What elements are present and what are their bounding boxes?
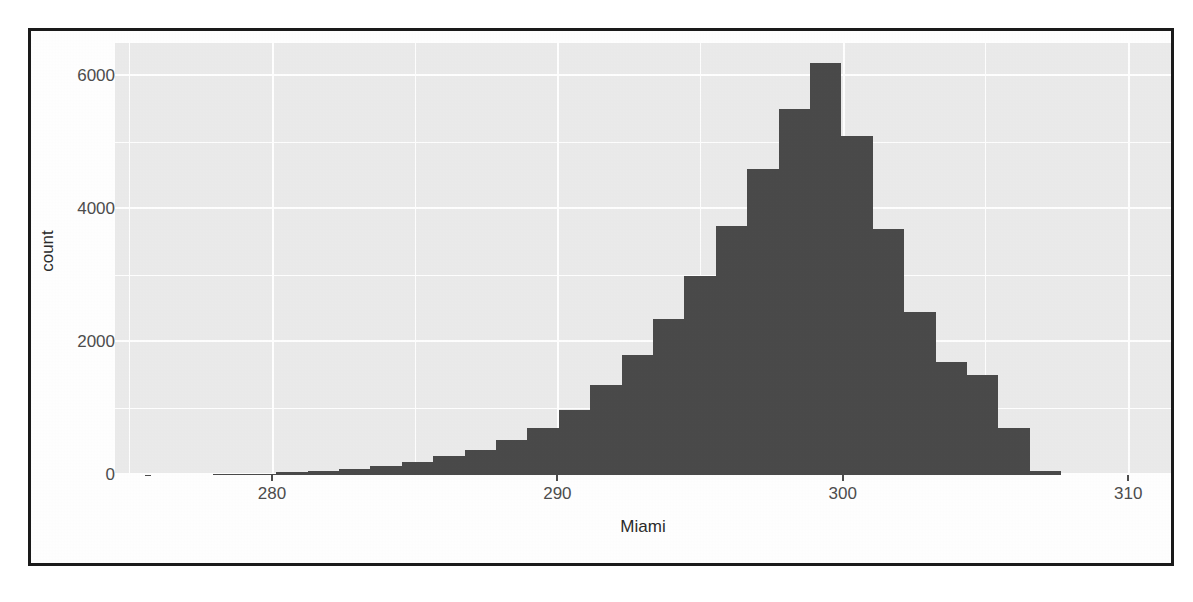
- histogram-bar: [402, 462, 433, 475]
- x-axis-tick-label: 280: [258, 484, 286, 504]
- histogram-bar: [747, 169, 778, 475]
- histogram-bar: [873, 229, 904, 475]
- x-axis-tick-label: 290: [543, 484, 571, 504]
- histogram-bar: [904, 312, 935, 475]
- y-axis-tick-labels: 0200040006000: [59, 43, 115, 475]
- histogram-bar: [684, 276, 715, 475]
- histogram-bar: [716, 226, 747, 475]
- histogram-bar: [779, 109, 810, 475]
- histogram-bar: [653, 319, 684, 475]
- plot-panel: [115, 43, 1171, 475]
- histogram-bar: [810, 63, 841, 475]
- histogram-chart: count 0200040006000 280290300310 Miami: [31, 31, 1171, 563]
- histogram-bar: [465, 450, 496, 475]
- histogram-bar: [559, 410, 590, 475]
- x-axis-ticks: 280290300310: [115, 475, 1171, 515]
- histogram-bar: [590, 385, 621, 475]
- histogram-bars: [115, 43, 1171, 475]
- x-axis-title: Miami: [115, 517, 1171, 537]
- histogram-bar: [527, 428, 558, 475]
- y-axis-tick-label: 2000: [59, 332, 115, 352]
- histogram-bar: [622, 355, 653, 475]
- histogram-bar: [967, 375, 998, 475]
- x-axis-tick-mark: [1127, 475, 1129, 481]
- x-axis-tick-mark: [556, 475, 558, 481]
- histogram-bar: [370, 466, 401, 475]
- y-axis-tick-label: 0: [59, 465, 115, 485]
- histogram-bar: [841, 136, 872, 475]
- y-axis-tick-label: 6000: [59, 66, 115, 86]
- y-axis-title-text: count: [38, 230, 58, 272]
- x-axis-tick-mark: [271, 475, 273, 481]
- histogram-bar: [496, 440, 527, 475]
- x-axis-tick-label: 300: [829, 484, 857, 504]
- y-axis-title: count: [37, 31, 59, 471]
- histogram-bar: [998, 428, 1029, 475]
- y-axis-tick-label: 4000: [59, 199, 115, 219]
- histogram-bar: [936, 362, 967, 475]
- figure-frame: count 0200040006000 280290300310 Miami: [28, 28, 1174, 566]
- histogram-bar: [433, 456, 464, 475]
- x-axis-tick-label: 310: [1114, 484, 1142, 504]
- x-axis-tick-mark: [842, 475, 844, 481]
